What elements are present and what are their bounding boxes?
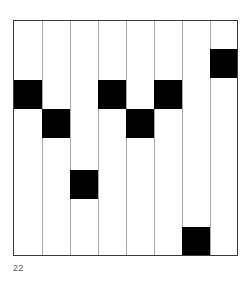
chart-frame — [13, 20, 238, 256]
column-divider-4 — [126, 21, 127, 255]
filled-cell-column-3 — [70, 170, 98, 199]
column-divider-6 — [182, 21, 183, 255]
column-divider-5 — [154, 21, 155, 255]
filled-cell-column-4 — [98, 80, 126, 109]
column-divider-2 — [70, 21, 71, 255]
figure-caption: 22 — [13, 263, 23, 274]
filled-cell-column-8 — [210, 49, 237, 78]
filled-cell-column-6 — [154, 80, 182, 109]
filled-cell-column-2 — [42, 109, 70, 138]
filled-cell-column-7 — [182, 227, 210, 255]
figure-root: 22 — [0, 0, 251, 281]
filled-cell-column-5 — [126, 109, 154, 138]
plot-area — [14, 21, 237, 255]
column-divider-3 — [98, 21, 99, 255]
filled-cell-column-1 — [14, 80, 42, 109]
column-divider-1 — [42, 21, 43, 255]
